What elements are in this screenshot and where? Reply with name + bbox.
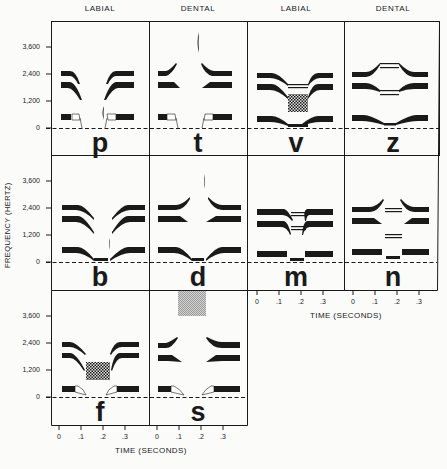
x-tick-0-m: 0: [250, 298, 264, 305]
x-tick-2-m: .2: [294, 298, 308, 305]
x-tick-1-m: .1: [272, 298, 286, 305]
panel-n-formants: [352, 199, 429, 259]
panel-v-formants: [257, 73, 333, 127]
panel-t-formants: [158, 32, 232, 128]
phoneme-label-v: v: [247, 129, 345, 157]
x-tick-0-n: 0: [346, 298, 360, 305]
x-tick-3-m: .3: [316, 298, 330, 305]
panel-s-formants: [158, 291, 240, 395]
x-tick-1-n: .1: [368, 298, 382, 305]
panel-m-formants: [257, 209, 333, 261]
x-tick-0-s: 0: [150, 433, 164, 440]
x-tick-3-n: .3: [412, 298, 426, 305]
x-tick-2-n: .2: [390, 298, 404, 305]
panel-z-formants: [352, 63, 428, 126]
x-tick-0-f: 0: [52, 433, 66, 440]
phoneme-label-b: b: [51, 263, 149, 291]
panel-f-formants: [62, 342, 139, 395]
panel-p-formants: [61, 71, 134, 128]
phoneme-label-m: m: [247, 263, 345, 291]
x-tick-1-s: .1: [172, 433, 186, 440]
x-tick-2-s: .2: [194, 433, 208, 440]
phoneme-label-p: p: [51, 129, 149, 157]
phoneme-label-n: n: [344, 263, 442, 291]
x-axis-label-right: TIME (SECONDS): [310, 311, 382, 320]
phoneme-label-s: s: [149, 398, 247, 426]
x-axis-label-bottom: TIME (SECONDS): [115, 446, 187, 455]
x-tick-2-f: .2: [96, 433, 110, 440]
x-tick-3-f: .3: [118, 433, 132, 440]
x-tick-1-f: .1: [74, 433, 88, 440]
panel-d-formants: [158, 174, 241, 261]
phoneme-label-f: f: [51, 398, 149, 426]
phoneme-label-z: z: [344, 129, 442, 157]
phoneme-label-t: t: [149, 129, 247, 157]
phoneme-label-d: d: [149, 263, 247, 291]
x-tick-3-s: .3: [216, 433, 230, 440]
panel-b-formants: [62, 205, 145, 261]
